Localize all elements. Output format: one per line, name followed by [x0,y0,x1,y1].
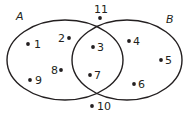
element-point: 2 [58,32,71,45]
element-point: 7 [88,69,101,82]
point-dot [132,82,136,86]
element-point: 1 [26,38,41,51]
point-label: 11 [94,3,108,16]
point-label: 9 [35,74,42,87]
venn-diagram: A B 1234567891011 [0,0,188,115]
point-dot [159,58,163,62]
set-a-ellipse [7,20,123,100]
set-b-label: B [166,13,174,26]
point-dot [90,104,94,108]
point-dot [98,16,102,20]
point-label: 8 [51,64,58,77]
set-a-label: A [15,10,24,23]
point-label: 4 [133,35,140,48]
element-point: 8 [51,64,63,77]
point-label: 5 [165,54,172,67]
point-dot [26,42,30,46]
element-point: 4 [127,35,140,48]
element-point: 3 [91,41,104,54]
element-point: 9 [28,74,42,87]
element-point: 5 [159,54,172,67]
point-label: 1 [34,38,41,51]
point-dot [59,68,63,72]
point-label: 2 [58,32,65,45]
point-dot [88,73,92,77]
point-dot [91,45,95,49]
point-label: 10 [97,100,111,113]
point-label: 3 [97,41,104,54]
element-point: 6 [132,78,145,91]
point-dot [28,78,32,82]
element-point: 11 [94,3,108,20]
point-label: 7 [94,69,101,82]
point-dot [67,36,71,40]
point-label: 6 [138,78,145,91]
point-dot [127,39,131,43]
element-point: 10 [90,100,111,113]
